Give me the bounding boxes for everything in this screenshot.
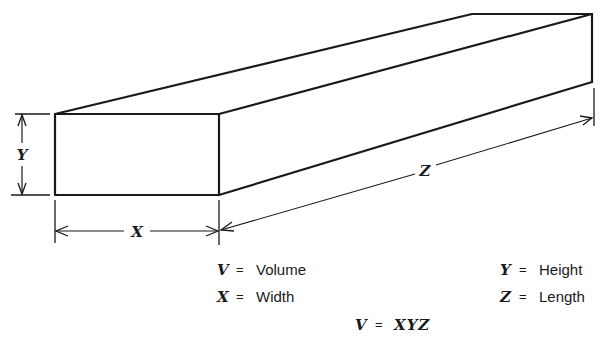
length-label: Z <box>419 162 432 180</box>
volume-formula: V = XYZ <box>355 316 430 334</box>
legend-item-length: Z = Length <box>499 288 585 306</box>
legend-meaning: Width <box>256 288 294 305</box>
legend-symbol: X <box>216 288 230 306</box>
legend-symbol: V <box>217 261 230 279</box>
legend-item-volume: V = Volume <box>217 261 306 279</box>
legend-meaning: Length <box>539 288 585 305</box>
legend-equals: = <box>519 262 527 277</box>
diagram-canvas: Y X Z V = Volume X <box>0 0 610 350</box>
length-dim-line-upper <box>436 118 592 165</box>
legend: V = Volume X = Width Y = Height Z = Leng… <box>216 261 585 334</box>
legend-item-height: Y = Height <box>500 261 583 279</box>
legend-equals: = <box>519 289 527 304</box>
legend-item-width: X = Width <box>216 288 294 306</box>
height-label: Y <box>17 146 29 164</box>
length-dimension <box>221 88 594 231</box>
formula-equals: = <box>375 317 383 332</box>
formula-rhs: XYZ <box>393 316 430 334</box>
legend-meaning: Volume <box>256 261 306 278</box>
bar-volume-diagram: Y X Z V = Volume X <box>0 0 610 350</box>
legend-symbol: Z <box>499 288 512 306</box>
rectangular-bar <box>55 14 592 195</box>
front-face <box>55 114 219 195</box>
legend-symbol: Y <box>500 261 512 279</box>
legend-meaning: Height <box>539 261 583 278</box>
formula-lhs: V <box>355 316 368 334</box>
legend-equals: = <box>236 262 244 277</box>
width-label: X <box>130 223 144 241</box>
length-dim-line-lower <box>221 174 415 230</box>
legend-equals: = <box>236 289 244 304</box>
